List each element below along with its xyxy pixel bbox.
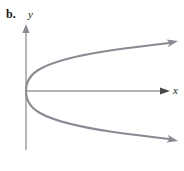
x-axis-label: x [173,85,178,96]
lower-branch-curve [26,91,171,139]
parabola-lower-branch [26,91,178,143]
x-axis-arrowhead-icon [160,87,170,94]
y-axis-label: y [28,9,33,20]
parabola-upper-branch [26,40,178,92]
parabola-graph [0,0,184,171]
y-axis-arrowhead-icon [22,24,29,33]
upper-branch-curve [26,43,171,91]
x-axis [26,87,170,94]
parabola-figure: b. y x [0,0,184,171]
